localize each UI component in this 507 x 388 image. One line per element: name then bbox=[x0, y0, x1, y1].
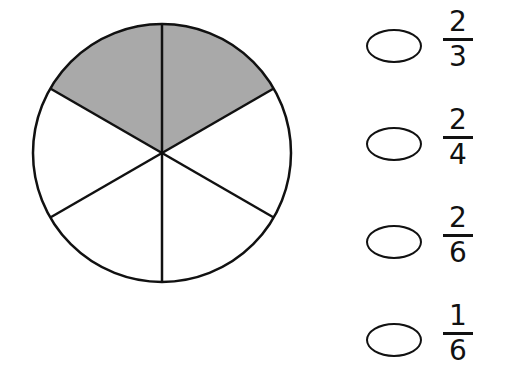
answer-option-3[interactable]: 2 6 bbox=[366, 204, 496, 284]
answer-bubble[interactable] bbox=[366, 127, 422, 161]
fraction-label: 2 4 bbox=[441, 106, 475, 171]
denominator: 4 bbox=[441, 139, 475, 171]
shaded-sector-2 bbox=[162, 24, 274, 153]
answer-option-4[interactable]: 1 6 bbox=[366, 302, 496, 382]
denominator: 3 bbox=[441, 41, 475, 73]
denominator: 6 bbox=[441, 237, 475, 269]
fraction-label: 2 6 bbox=[441, 204, 475, 269]
denominator: 6 bbox=[441, 335, 475, 367]
numerator: 2 bbox=[441, 8, 475, 38]
answer-bubble[interactable] bbox=[366, 29, 422, 63]
numerator: 2 bbox=[441, 106, 475, 136]
shaded-sector-1 bbox=[50, 24, 162, 153]
fraction-label: 1 6 bbox=[441, 302, 475, 367]
numerator: 2 bbox=[441, 204, 475, 234]
answer-bubble[interactable] bbox=[366, 323, 422, 357]
fraction-circle bbox=[0, 0, 330, 310]
fraction-label: 2 3 bbox=[441, 8, 475, 73]
answer-bubble[interactable] bbox=[366, 225, 422, 259]
answer-option-2[interactable]: 2 4 bbox=[366, 106, 496, 186]
numerator: 1 bbox=[441, 302, 475, 332]
answer-option-1[interactable]: 2 3 bbox=[366, 8, 496, 88]
